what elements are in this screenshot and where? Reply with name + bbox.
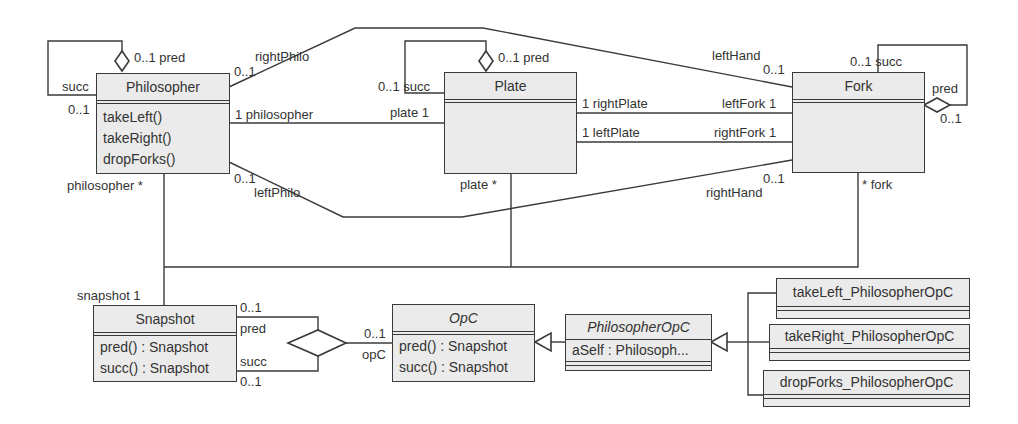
- class-opc[interactable]: OpC pred() : Snapshot succ() : Snapshot: [392, 304, 535, 382]
- class-philosopher[interactable]: Philosopher takeLeft() takeRight() dropF…: [96, 73, 230, 174]
- generalization-arrow-icon: [711, 333, 727, 351]
- role-label: pred: [240, 322, 266, 336]
- class-dropforks-philosopheropc[interactable]: dropForks_PhilosopherOpC: [763, 370, 970, 407]
- role-label: pred: [932, 82, 958, 96]
- role-label: 0..1 pred: [498, 51, 549, 65]
- operation: pred() : Snapshot: [100, 337, 236, 358]
- uml-class-diagram: Philosopher takeLeft() takeRight() dropF…: [0, 0, 1018, 424]
- role-label: succ: [240, 355, 267, 369]
- attribute: aSelf : Philosoph...: [566, 340, 711, 362]
- role-label: * fork: [862, 178, 892, 192]
- class-name: Philosopher: [97, 74, 229, 101]
- operation: pred() : Snapshot: [399, 336, 534, 357]
- class-name: takeLeft_PhilosopherOpC: [777, 279, 969, 307]
- role-label: rightHand: [706, 186, 762, 200]
- role-label: opC: [362, 348, 386, 362]
- role-label: 1 philosopher: [235, 108, 313, 122]
- role-label: rightPhilo: [255, 50, 309, 64]
- class-name: OpC: [393, 305, 534, 332]
- multiplicity-label: 0..1: [234, 65, 256, 79]
- multiplicity-label: 0..1: [234, 172, 256, 186]
- operation: succ() : Snapshot: [100, 358, 236, 379]
- attribute-compartment: [445, 100, 576, 103]
- plate-aggregation-diamond-icon: [479, 51, 493, 71]
- multiplicity-label: 0..1: [68, 103, 90, 117]
- operation-compartment: pred() : Snapshot succ() : Snapshot: [393, 335, 534, 378]
- role-label: plate *: [460, 178, 497, 192]
- operation-compartment: [566, 362, 711, 366]
- role-label: 0..1 pred: [134, 51, 185, 65]
- multiplicity-label: 0..1: [940, 112, 962, 126]
- role-label: leftFork 1: [722, 97, 776, 111]
- class-name: takeRight_PhilosopherOpC: [770, 325, 969, 349]
- attribute-compartment: [764, 395, 969, 399]
- operation: succ() : Snapshot: [399, 357, 534, 378]
- class-name: Snapshot: [94, 306, 236, 333]
- class-philosopheropc[interactable]: PhilosopherOpC aSelf : Philosoph...: [565, 314, 712, 371]
- generalization-arrow-icon: [535, 333, 551, 351]
- multiplicity-label: 0..1: [240, 301, 262, 315]
- class-name: Fork: [793, 73, 924, 100]
- class-fork[interactable]: Fork: [792, 72, 925, 173]
- philosopher-aggregation-diamond-icon: [115, 51, 129, 71]
- role-label: leftPhilo: [254, 186, 300, 200]
- role-label: 1 leftPlate: [582, 126, 640, 140]
- role-label: succ: [62, 80, 89, 94]
- role-label: philosopher *: [67, 179, 143, 193]
- class-snapshot[interactable]: Snapshot pred() : Snapshot succ() : Snap…: [93, 305, 237, 382]
- role-label: plate 1: [390, 106, 429, 120]
- role-label: 0..1 succ: [850, 55, 902, 69]
- ternary-association-diamond-icon: [288, 330, 346, 356]
- multiplicity-label: 0..1: [364, 327, 386, 341]
- fork-aggregation-diamond-icon: [924, 98, 950, 112]
- role-label: rightFork 1: [714, 126, 776, 140]
- class-name: Plate: [445, 73, 576, 100]
- operation-compartment: takeLeft() takeRight() dropForks(): [97, 104, 229, 170]
- operation: takeRight(): [103, 128, 229, 149]
- operation: takeLeft(): [103, 107, 229, 128]
- operation: dropForks(): [103, 149, 229, 170]
- role-label: leftHand: [712, 49, 760, 63]
- class-name: dropForks_PhilosopherOpC: [764, 371, 969, 395]
- multiplicity-label: 0..1: [763, 63, 785, 77]
- class-takeleft-philosopheropc[interactable]: takeLeft_PhilosopherOpC: [776, 278, 970, 319]
- attribute-compartment: [770, 349, 969, 353]
- operation-compartment: pred() : Snapshot succ() : Snapshot: [94, 336, 236, 379]
- role-label: 0..1 succ: [378, 80, 430, 94]
- class-plate[interactable]: Plate: [444, 72, 577, 174]
- role-label: snapshot 1: [77, 289, 141, 303]
- role-label: 1 rightPlate: [582, 97, 648, 111]
- multiplicity-label: 0..1: [763, 172, 785, 186]
- attribute-compartment: [777, 307, 969, 311]
- attribute-compartment: [793, 100, 924, 103]
- class-name: PhilosopherOpC: [566, 315, 711, 340]
- multiplicity-label: 0..1: [240, 375, 262, 389]
- class-takeright-philosopheropc[interactable]: takeRight_PhilosopherOpC: [769, 324, 970, 361]
